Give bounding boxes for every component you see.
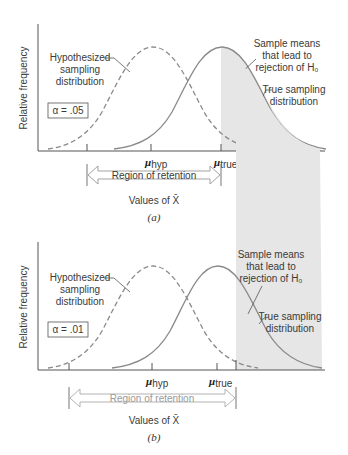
reject-label-2: that lead to (246, 261, 296, 272)
panel-caption: (a) (148, 211, 161, 224)
panel-caption: (b) (148, 431, 161, 444)
power-diagram: Relative frequency Hypothesized sampling… (0, 0, 348, 455)
mu-true-label: μtrue (213, 156, 238, 170)
mu-hyp-label: μhyp (144, 156, 168, 170)
region-label: Region of retention (110, 393, 195, 404)
hyp-label-2: sampling (60, 64, 100, 75)
hyp-label-1: Hypothesized (50, 272, 111, 283)
reject-label-1: Sample means (254, 38, 321, 49)
x-axis-label: Values of X̄ (129, 194, 180, 206)
true-label-2: distribution (270, 96, 318, 107)
region-label: Region of retention (112, 170, 197, 181)
y-axis-label: Relative frequency (18, 266, 29, 349)
mu-true-label: μtrue (208, 375, 233, 389)
reject-label-3: rejection of H₀ (239, 273, 302, 284)
reject-label-2: that lead to (262, 50, 312, 61)
alpha-label: α = .05 (52, 105, 84, 116)
hyp-label-1: Hypothesized (50, 52, 111, 63)
x-axis-label: Values of X̄ (129, 414, 180, 426)
y-axis-label: Relative frequency (18, 47, 29, 130)
hyp-label-3: distribution (56, 296, 104, 307)
true-label-1: True sampling (259, 311, 322, 322)
true-label-2: distribution (266, 323, 314, 334)
reject-label-3: rejection of H₀ (255, 62, 318, 73)
true-label-1: True sampling (263, 84, 326, 95)
hyp-label-2: sampling (60, 284, 100, 295)
mu-hyp-label: μhyp (145, 375, 169, 389)
reject-label-1: Sample means (238, 249, 305, 260)
alpha-label: α = .01 (52, 324, 84, 335)
hyp-label-3: distribution (56, 76, 104, 87)
